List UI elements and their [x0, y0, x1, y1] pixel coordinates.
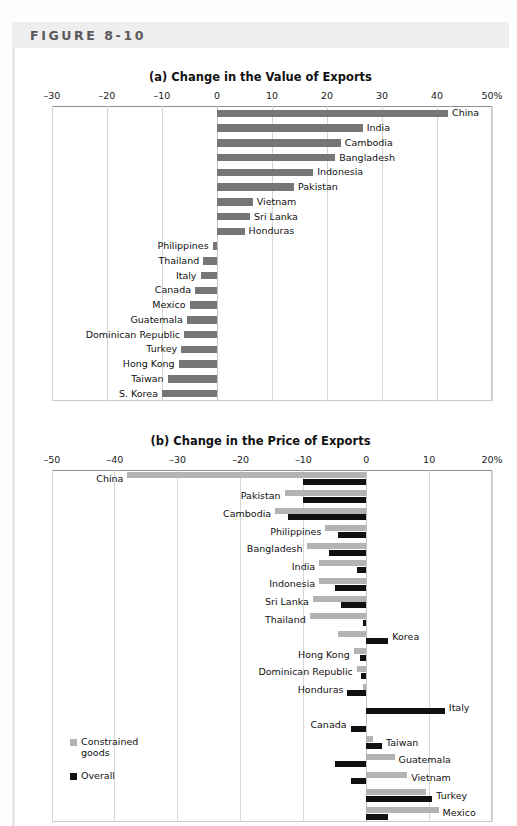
bar-overall: [366, 814, 388, 820]
bar: [217, 124, 363, 132]
bar-category-label: Sri Lanka: [254, 212, 298, 222]
bar-category-label: Cambodia: [223, 509, 271, 519]
axis-gridline: [107, 106, 108, 401]
bar: [217, 139, 341, 147]
bar: [217, 110, 448, 118]
x-axis-tick-label: –20: [99, 90, 116, 101]
bar-category-label: Dominican Republic: [258, 667, 352, 677]
panel-b-plot-border: [52, 470, 492, 822]
panel-a-title: (a) Change in the Value of Exports: [12, 70, 509, 84]
x-axis-tick-label: 30: [376, 90, 388, 101]
bar-category-label: Canada: [155, 285, 191, 295]
legend-label-overall: Overall: [81, 771, 115, 782]
bar-category-label: Philippines: [270, 527, 321, 537]
panel-b: (b) Change in the Price of Exports Const…: [12, 432, 509, 826]
bar-constrained-goods: [354, 648, 367, 654]
bar-overall: [303, 479, 366, 485]
bar-overall: [366, 708, 445, 714]
bar-overall: [338, 532, 366, 538]
x-axis-tick-label: 0: [214, 90, 220, 101]
bar-overall: [357, 567, 366, 573]
x-axis-tick-label: –10: [154, 90, 171, 101]
bar-category-label: Honduras: [298, 685, 344, 695]
bar-constrained-goods: [366, 754, 394, 760]
bar: [184, 331, 217, 339]
bar-category-label: Turkey: [436, 791, 467, 801]
bar-constrained-goods: [357, 666, 366, 672]
bar-category-label: Pakistan: [298, 182, 338, 192]
axis-gridline: [303, 470, 304, 822]
axis-zero-line: [217, 106, 218, 401]
bar-category-label: India: [292, 562, 315, 572]
bar-category-label: Bangladesh: [247, 544, 303, 554]
legend-item-constrained-goods: Constrained goods: [70, 737, 138, 759]
figure-label: FIGURE 8-10: [30, 28, 146, 43]
bar: [217, 154, 335, 162]
bar-constrained-goods: [366, 772, 407, 778]
bar-overall: [363, 620, 366, 626]
bar: [190, 301, 218, 309]
legend-item-overall: Overall: [70, 771, 115, 782]
bar-category-label: Honduras: [249, 226, 295, 236]
bar: [217, 228, 245, 236]
bar: [181, 346, 217, 354]
bar-category-label: Hong Kong: [123, 359, 175, 369]
axis-gridline: [382, 106, 383, 401]
bar-constrained-goods: [325, 525, 366, 531]
bar-constrained-goods: [307, 543, 367, 549]
bar-category-label: Thailand: [158, 256, 199, 266]
bar-category-label: Indonesia: [269, 579, 315, 589]
bar-overall: [351, 726, 367, 732]
axis-gridline: [52, 106, 53, 401]
bar-category-label: Canada: [310, 720, 346, 730]
axis-gridline: [429, 470, 430, 822]
x-axis-tick-label: –40: [106, 454, 123, 465]
axis-gridline: [162, 106, 163, 401]
bar-overall: [329, 550, 367, 556]
bar-category-label: Guatemala: [399, 755, 451, 765]
bar: [203, 257, 217, 265]
bar-category-label: Pakistan: [241, 491, 281, 501]
x-axis-tick-label: 10: [423, 454, 435, 465]
bar-category-label: China: [96, 474, 123, 484]
bar-category-label: Vietnam: [257, 197, 297, 207]
bar-category-label: Philippines: [157, 241, 208, 251]
x-axis-tick-label: 20: [321, 90, 333, 101]
legend-label-constrained-goods: Constrained goods: [81, 737, 138, 759]
bar-constrained-goods: [310, 613, 367, 619]
bar-category-label: Mexico: [152, 300, 185, 310]
bar-overall: [303, 497, 366, 503]
x-axis-tick-label: –30: [44, 90, 61, 101]
bar-category-label: Italy: [449, 703, 470, 713]
bar-overall: [288, 514, 367, 520]
bar-category-label: Thailand: [265, 615, 306, 625]
bar-constrained-goods: [366, 736, 372, 742]
bar-category-label: Taiwan: [131, 374, 163, 384]
legend-swatch-constrained-goods: [70, 739, 77, 746]
bar-category-label: Vietnam: [411, 773, 451, 783]
bar-overall: [366, 638, 388, 644]
bar-category-label: Mexico: [443, 808, 476, 818]
axis-gridline: [177, 470, 178, 822]
bar: [217, 169, 313, 177]
bar-category-label: China: [452, 108, 479, 118]
bar-category-label: Turkey: [146, 344, 177, 354]
bar-category-label: India: [367, 123, 390, 133]
bar-overall: [361, 673, 366, 679]
bar-category-label: Hong Kong: [298, 650, 350, 660]
legend-swatch-overall: [70, 773, 77, 780]
axis-gridline: [52, 470, 53, 822]
x-axis-tick-label: 40: [431, 90, 443, 101]
bar-constrained-goods: [338, 631, 366, 637]
bar-overall: [366, 743, 382, 749]
bar-constrained-goods: [363, 684, 366, 690]
bar-category-label: Indonesia: [317, 167, 363, 177]
bar: [195, 287, 217, 295]
panel-a-plot: [52, 106, 492, 401]
bar-constrained-goods: [319, 560, 366, 566]
bar-category-label: Sri Lanka: [265, 597, 309, 607]
axis-gridline: [437, 106, 438, 401]
x-axis-tick-label: –10: [295, 454, 312, 465]
x-axis-tick-label: 50%: [481, 90, 502, 101]
figure-page: FIGURE 8-10 (a) Change in the Value of E…: [0, 0, 517, 826]
